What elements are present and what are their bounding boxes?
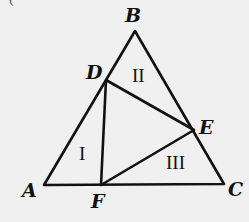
vertex-label-f: F bbox=[90, 190, 106, 212]
outer-triangle-abc bbox=[44, 31, 224, 185]
region-label-iii: III bbox=[166, 152, 185, 173]
triangle-diagram: ( B D E A F C I II III bbox=[0, 0, 249, 222]
vertex-label-e: E bbox=[198, 116, 214, 138]
region-label-ii: II bbox=[132, 65, 145, 86]
vertex-label-d: D bbox=[85, 61, 103, 83]
region-label-i: I bbox=[79, 143, 85, 164]
vertex-label-a: A bbox=[20, 179, 37, 201]
vertex-label-b: B bbox=[124, 4, 141, 26]
partial-figure-label: ( bbox=[9, 0, 14, 7]
vertex-label-c: C bbox=[228, 178, 243, 200]
